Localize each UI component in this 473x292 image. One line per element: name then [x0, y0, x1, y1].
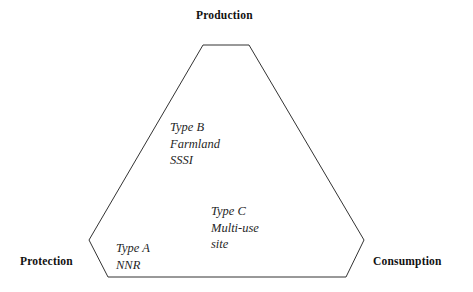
type-a-annotation: Type A NNR	[116, 240, 150, 273]
type-c-annotation: Type C Multi-use site	[211, 203, 259, 253]
type-c-line-1: Type C	[211, 203, 259, 220]
corner-label-production: Production	[196, 9, 253, 21]
type-c-line-2: Multi-use	[211, 220, 259, 237]
type-b-line-2: Farmland	[170, 136, 220, 153]
type-a-line-1: Type A	[116, 240, 150, 257]
type-c-line-3: site	[211, 236, 259, 253]
corner-label-consumption: Consumption	[373, 255, 442, 267]
type-a-line-2: NNR	[116, 257, 150, 274]
type-b-line-1: Type B	[170, 119, 220, 136]
corner-label-protection: Protection	[20, 255, 73, 267]
type-b-annotation: Type B Farmland SSSI	[170, 119, 220, 169]
diagram-canvas: Production Protection Consumption Type B…	[0, 0, 473, 292]
type-b-line-3: SSSI	[170, 152, 220, 169]
